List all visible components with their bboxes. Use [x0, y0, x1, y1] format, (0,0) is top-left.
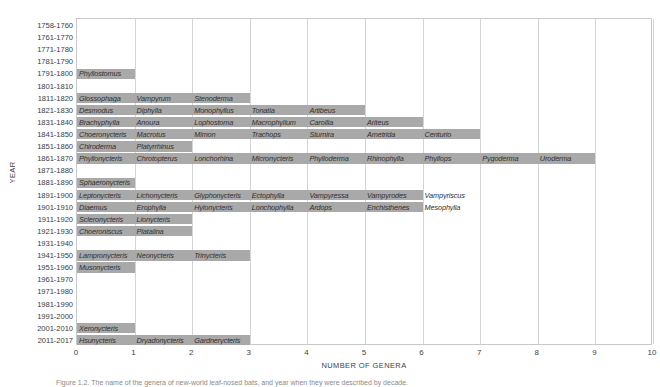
- bar-rows: 1758-17601761-17701771-17801781-17901791…: [77, 19, 653, 346]
- y-axis-tick-label: 1921-1930: [37, 226, 73, 235]
- genus-label: Chrotopterus: [135, 154, 193, 163]
- genus-label: Glossophaga: [77, 93, 135, 102]
- genus-label: Pygoderma: [480, 154, 538, 163]
- chart-row: 1791-1800Phyllostomus: [77, 67, 653, 79]
- chart-row: 1781-1790: [77, 55, 653, 67]
- genus-label: Scleronycteris: [77, 214, 135, 223]
- genus-label: Xeronycteris: [77, 323, 135, 332]
- x-axis-tick-label: 9: [592, 348, 596, 357]
- x-axis-tick-label: 3: [247, 348, 251, 357]
- y-axis-tick-label: 1781-1790: [37, 57, 73, 66]
- genus-label: Centurio: [423, 130, 481, 139]
- chart-row: 1911-1920ScleronycterisLionycteris: [77, 213, 653, 225]
- genus-label: Hsunycteris: [77, 335, 135, 344]
- gridline: [653, 19, 654, 344]
- y-axis-tick-label: 2001-2010: [37, 323, 73, 332]
- genus-label: Vampyressa: [307, 190, 365, 199]
- genus-label: Diphylla: [135, 105, 193, 114]
- genus-label: Anoura: [135, 117, 193, 126]
- genus-label: Mesophylla: [423, 202, 481, 211]
- y-axis-tick-label: 1758-1760: [37, 21, 73, 30]
- chart-row: 1921-1930ChoeroniscusPlatalina: [77, 225, 653, 237]
- genus-label: Neonycteris: [135, 251, 193, 260]
- genus-label: Phyllops: [423, 154, 481, 163]
- y-axis-tick-label: 1831-1840: [37, 117, 73, 126]
- chart-row: 1881-1890Sphaeronycteris: [77, 176, 653, 188]
- x-axis-tick-label: 4: [304, 348, 308, 357]
- genus-label: Ariteus: [365, 117, 423, 126]
- genus-label: Phyllostomus: [77, 69, 135, 78]
- y-axis-tick-label: 1881-1890: [37, 178, 73, 187]
- y-axis-tick-label: 1761-1770: [37, 33, 73, 42]
- genus-label: Platalina: [135, 226, 193, 235]
- x-axis-tick-label: 8: [535, 348, 539, 357]
- genus-label: Macrotus: [135, 130, 193, 139]
- genus-label: Macrophyllum: [250, 117, 308, 126]
- genus-label: Chiroderma: [77, 142, 135, 151]
- chart-row: 2011-2017HsunycterisDryadonycterisGardne…: [77, 334, 653, 346]
- x-axis-title: NUMBER OF GENERA: [76, 361, 652, 370]
- genus-label: Choeroniscus: [77, 226, 135, 235]
- y-axis-title: YEAR: [8, 149, 17, 197]
- genus-label: Ectophylla: [250, 190, 308, 199]
- genus-label: Ardops: [307, 202, 365, 211]
- genus-label: Phyllonycteris: [77, 154, 135, 163]
- genus-label: Uroderma: [538, 154, 596, 163]
- y-axis-tick-label: 1851-1860: [37, 142, 73, 151]
- chart-row: 1891-1900LeptonycterisLichonycterisGlyph…: [77, 189, 653, 201]
- x-axis-tick-label: 1: [131, 348, 135, 357]
- chart-row: 1861-1870PhyllonycterisChrotopterusLonch…: [77, 152, 653, 164]
- genus-label: Hylonycteris: [192, 202, 250, 211]
- y-axis-tick-label: 2011-2017: [38, 335, 73, 344]
- x-axis-tick-label: 0: [74, 348, 78, 357]
- chart-row: 1811-1820GlossophagaVampyrumStenoderma: [77, 92, 653, 104]
- y-axis-tick-label: 1861-1870: [37, 154, 73, 163]
- chart-row: 1901-1910DiaemusErophyllaHylonycterisLon…: [77, 201, 653, 213]
- chart-row: 1951-1960Musonycteris: [77, 261, 653, 273]
- x-axis-tick-label: 5: [362, 348, 366, 357]
- y-axis-tick-label: 1961-1970: [37, 275, 73, 284]
- genus-label: Monophyllus: [192, 105, 250, 114]
- y-axis-tick-label: 1791-1800: [37, 69, 73, 78]
- x-axis-tick-label: 6: [419, 348, 423, 357]
- chart-row: 1821-1830DesmodusDiphyllaMonophyllusTona…: [77, 104, 653, 116]
- y-axis-tick-label: 1811-1820: [38, 93, 73, 102]
- genus-label: Lichonycteris: [135, 190, 193, 199]
- genus-label: Trachops: [250, 130, 308, 139]
- genus-label: Artibeus: [307, 105, 365, 114]
- genus-label: Carollia: [307, 117, 365, 126]
- genus-label: Lonchophylla: [250, 202, 308, 211]
- genus-label: Erophylla: [135, 202, 193, 211]
- figure-phyllostomid-genera-by-decade: YEAR 1758-17601761-17701771-17801781-179…: [0, 0, 660, 387]
- chart-row: 1871-1880: [77, 164, 653, 176]
- genus-label: Glyphonycteris: [192, 190, 250, 199]
- genus-label: Dryadonycteris: [135, 335, 193, 344]
- genus-label: Diaemus: [77, 202, 135, 211]
- genus-label: Mimon: [192, 130, 250, 139]
- y-axis-tick-label: 1891-1900: [37, 190, 73, 199]
- chart-row: 1981-1990: [77, 298, 653, 310]
- y-axis-tick-label: 1951-1960: [37, 263, 73, 272]
- y-axis-tick-label: 1871-1880: [37, 166, 73, 175]
- chart-row: 1851-1860ChirodermaPlatyrrhinus: [77, 140, 653, 152]
- y-axis-tick-label: 1991-2000: [37, 311, 73, 320]
- genus-label: Musonycteris: [77, 263, 135, 272]
- chart-row: 1801-1810: [77, 80, 653, 92]
- genus-label: Platyrrhinus: [135, 142, 193, 151]
- genus-label: Lionycteris: [135, 214, 193, 223]
- chart-row: 1941-1950LampronycterisNeonycterisTrinyc…: [77, 249, 653, 261]
- genus-label: Sturnira: [307, 130, 365, 139]
- genus-label: Trinycteris: [192, 251, 250, 260]
- genus-label: Choeronycteris: [77, 130, 135, 139]
- genus-label: Lophostoma: [192, 117, 250, 126]
- genus-label: Vampyriscus: [423, 190, 481, 199]
- x-axis-tick-labels: 012345678910: [76, 348, 652, 360]
- chart-row: 1841-1850ChoeronycterisMacrotusMimonTrac…: [77, 128, 653, 140]
- y-axis-tick-label: 1801-1810: [37, 81, 73, 90]
- genus-label: Desmodus: [77, 105, 135, 114]
- genus-label: Leptonycteris: [77, 190, 135, 199]
- chart-row: 1831-1840BrachyphyllaAnouraLophostomaMac…: [77, 116, 653, 128]
- genus-label: Lonchorhina: [192, 154, 250, 163]
- chart-row: 1991-2000: [77, 310, 653, 322]
- genus-label: Phylloderma: [307, 154, 365, 163]
